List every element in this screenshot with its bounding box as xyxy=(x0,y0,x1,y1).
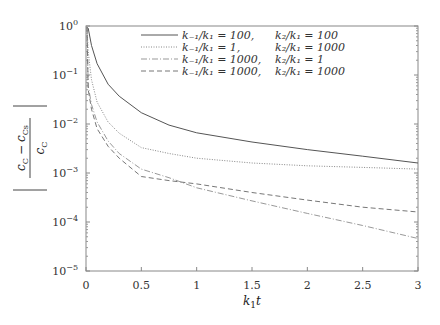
x-tick-label: 1 xyxy=(193,279,200,292)
y-label-sub2: Cs xyxy=(21,125,30,135)
x-axis-label: k1t xyxy=(243,294,261,310)
x-label-k: k xyxy=(243,294,250,308)
series-line-2 xyxy=(87,27,418,169)
y-tick-label: 10−4 xyxy=(52,214,78,229)
y-label-minus: − xyxy=(14,145,28,155)
y-axis-label: cC−cCs cC xyxy=(13,106,49,190)
svg-text:cC: cC xyxy=(33,142,49,155)
x-tick-label: 2 xyxy=(304,279,311,292)
legend-label-right: k₂/k₁ = 1000 xyxy=(275,65,345,78)
x-tick-label: 3 xyxy=(415,279,422,292)
y-tick-label: 10−5 xyxy=(52,263,78,278)
x-label-t: t xyxy=(256,294,261,308)
legend-label-left: k₋₁/k₁ = 1000, xyxy=(182,65,261,78)
x-tick-label: 0 xyxy=(83,279,90,292)
x-tick-label: 1.5 xyxy=(243,279,261,292)
y-label-den-sub: C xyxy=(40,142,49,148)
y-label-sub: C xyxy=(21,158,30,164)
y-tick-label: 10−3 xyxy=(52,165,78,180)
y-tick-label: 100 xyxy=(59,18,78,33)
svg-text:cC−cCs: cC−cCs xyxy=(14,125,30,171)
legend: k₋₁/k₁ = 100,k₂/k₁ = 100k₋₁/k₁ = 1,k₂/k₁… xyxy=(141,29,345,78)
y-tick-label: 10−2 xyxy=(52,116,78,131)
x-tick-label: 0.5 xyxy=(133,279,151,292)
x-tick-label: 2.5 xyxy=(354,279,372,292)
chart: 00.511.522.53 10010−110−210−310−410−5 k₋… xyxy=(0,0,440,325)
series-line-1 xyxy=(87,27,418,163)
y-tick-label: 10−1 xyxy=(52,67,78,82)
